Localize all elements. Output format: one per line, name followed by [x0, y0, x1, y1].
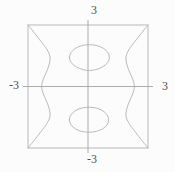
curve-upper-oval — [69, 45, 109, 71]
plot-canvas — [0, 0, 175, 172]
curve-lower-oval — [69, 107, 108, 132]
x-axis-min-label: -3 — [2, 79, 26, 91]
y-axis-max-label: 3 — [86, 4, 102, 16]
x-axis-max-label: 3 — [157, 80, 173, 92]
y-axis-min-label: -3 — [79, 153, 105, 165]
implicit-plot-figure: 3 -3 -3 3 — [0, 0, 175, 172]
